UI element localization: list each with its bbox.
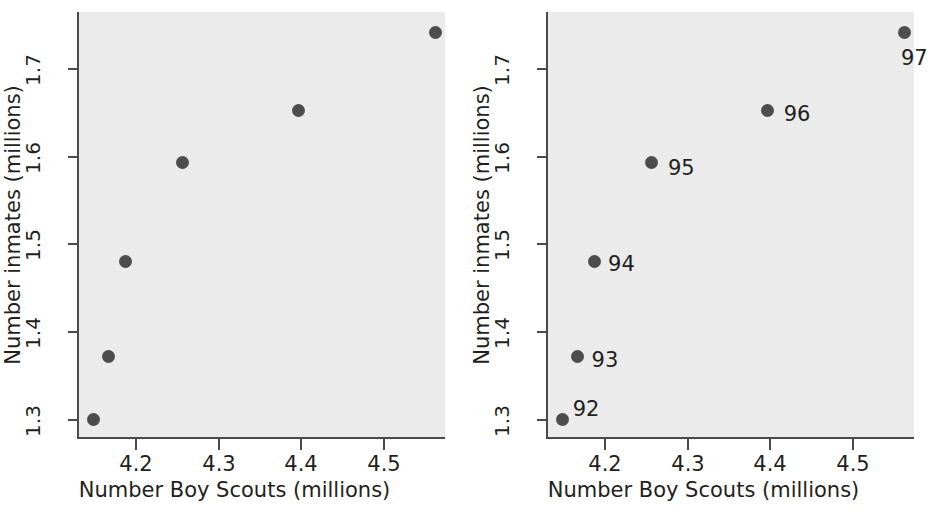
x-tick-label-left-2: 4.4 (266, 452, 336, 476)
x-axis-line-right (546, 437, 914, 439)
x-tick-label-left-0: 4.2 (101, 452, 171, 476)
y-tick-mark-1.7-right (537, 68, 548, 70)
x-axis-line-left (77, 437, 445, 439)
data-point-92 (87, 413, 100, 426)
data-point-label-95: 95 (668, 156, 695, 180)
x-axis-title-right: Number Boy Scouts (millions) (469, 478, 938, 502)
y-axis-title-text-left: Number inmates (millions) (1, 85, 25, 365)
x-tick-label-right-1: 4.3 (653, 452, 723, 476)
y-tick-mark-1.6-left (68, 156, 79, 158)
x-tick-mark-4.4-left (300, 439, 302, 450)
y-tick-mark-1.5-right (537, 243, 548, 245)
x-tick-label-left-1: 4.3 (184, 452, 254, 476)
x-tick-label-left-3: 4.5 (349, 452, 419, 476)
scatter-plot-figure: 1.3 1.4 1.5 1.6 1.7 4.2 4.3 4.4 4.5 Numb… (0, 0, 938, 520)
y-axis-title-text-right: Number inmates (millions) (470, 85, 494, 365)
y-tick-mark-1.5-left (68, 243, 79, 245)
y-axis-line-left (77, 12, 79, 438)
data-point-label-92: 92 (573, 397, 600, 421)
y-axis-title-left: Number inmates (millions) (0, 12, 28, 437)
x-tick-label-right-3: 4.5 (818, 452, 888, 476)
x-tick-mark-4.2-right (604, 439, 606, 450)
x-tick-label-right-0: 4.2 (570, 452, 640, 476)
x-tick-mark-4.5-left (383, 439, 385, 450)
panel-unlabeled-scatter: 1.3 1.4 1.5 1.6 1.7 4.2 4.3 4.4 4.5 Numb… (0, 0, 469, 520)
y-tick-mark-1.6-right (537, 156, 548, 158)
data-point-label-94: 94 (608, 252, 635, 276)
x-tick-mark-4.4-right (769, 439, 771, 450)
data-point-label-93: 93 (592, 348, 619, 372)
x-tick-mark-4.3-left (218, 439, 220, 450)
plot-area-right (547, 12, 914, 437)
x-tick-label-right-2: 4.4 (735, 452, 805, 476)
data-point-97 (898, 26, 911, 39)
y-axis-line-right (546, 12, 548, 438)
data-point-label-97: 97 (901, 46, 928, 70)
y-tick-mark-1.3-right (537, 419, 548, 421)
data-point-label-96: 96 (784, 102, 811, 126)
y-axis-title-right: Number inmates (millions) (467, 12, 497, 437)
plot-area-left (78, 12, 445, 437)
x-tick-mark-4.5-right (852, 439, 854, 450)
y-tick-mark-1.7-left (68, 68, 79, 70)
panel-year-labeled-scatter: 1.3 1.4 1.5 1.6 1.7 4.2 4.3 4.4 4.5 Numb… (469, 0, 938, 520)
data-point-94 (119, 255, 132, 268)
x-tick-mark-4.2-left (135, 439, 137, 450)
y-tick-mark-1.3-left (68, 419, 79, 421)
x-tick-mark-4.3-right (687, 439, 689, 450)
data-point-92 (556, 413, 569, 426)
y-tick-mark-1.4-left (68, 331, 79, 333)
y-tick-mark-1.4-right (537, 331, 548, 333)
x-axis-title-left: Number Boy Scouts (millions) (0, 478, 469, 502)
data-point-94 (588, 255, 601, 268)
data-point-97 (429, 26, 442, 39)
